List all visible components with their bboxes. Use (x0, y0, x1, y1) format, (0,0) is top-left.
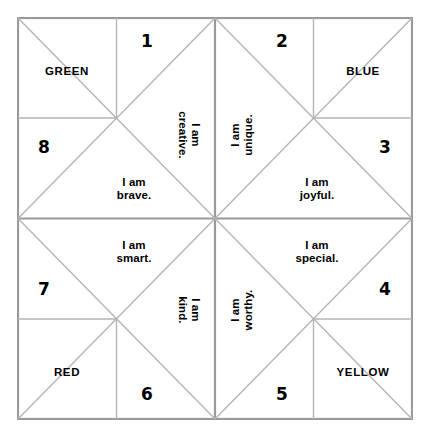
affirmation-kind: I am kind. (176, 296, 202, 323)
number-cell-2: 2 (276, 32, 288, 51)
affirmation-worthy: I am worthy. (229, 290, 255, 331)
color-cell-blue: BLUE (346, 65, 380, 78)
color-cell-yellow: YELLOW (337, 366, 390, 379)
number-cell-7: 7 (38, 280, 50, 299)
fold-lines-diagram (17, 17, 413, 420)
affirmation-special: I am special. (296, 239, 339, 265)
fortune-teller-template: GREEN 1 8 I am creative. I am brave. BLU… (17, 17, 413, 420)
affirmation-unique: I am unique. (229, 114, 255, 156)
number-cell-8: 8 (38, 138, 50, 157)
number-cell-5: 5 (276, 385, 288, 404)
number-cell-4: 4 (379, 280, 391, 299)
number-cell-3: 3 (379, 138, 391, 157)
affirmation-joyful: I am joyful. (300, 176, 335, 202)
number-cell-6: 6 (141, 385, 153, 404)
color-cell-red: RED (54, 366, 80, 379)
affirmation-creative: I am creative. (176, 111, 202, 159)
color-cell-green: GREEN (45, 65, 89, 78)
affirmation-smart: I am smart. (116, 239, 151, 265)
number-cell-1: 1 (141, 32, 153, 51)
affirmation-brave: I am brave. (117, 176, 151, 202)
